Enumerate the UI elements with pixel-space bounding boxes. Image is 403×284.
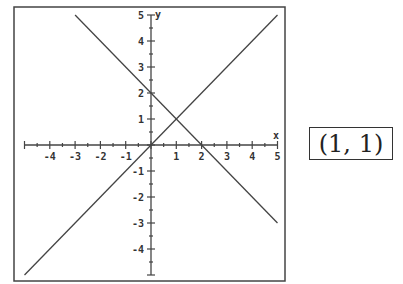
x-tick-label: 3 — [224, 151, 230, 162]
y-tick-label: 3 — [138, 62, 144, 73]
y-axis-label: y — [155, 9, 161, 20]
x-tick-label: -3 — [69, 151, 81, 162]
answer-text: (1, 1) — [319, 130, 384, 158]
plot-frame — [14, 7, 285, 281]
y-tick-label: 5 — [138, 10, 144, 21]
x-tick-label: 4 — [249, 151, 255, 162]
x-axis-label: x — [273, 130, 279, 141]
y-tick-label: -4 — [132, 244, 144, 255]
x-tick-label: -2 — [94, 151, 106, 162]
y-tick-label: -1 — [132, 166, 144, 177]
x-tick-label: 2 — [199, 151, 205, 162]
x-tick-label: -4 — [44, 151, 56, 162]
y-tick-label: 1 — [138, 114, 144, 125]
graph-plot: -4-3-2-112345-4-3-2-112345 x y — [0, 0, 290, 284]
x-tick-label: -1 — [120, 151, 132, 162]
y-tick-label: 4 — [138, 36, 144, 47]
y-tick-label: 2 — [138, 88, 144, 99]
y-tick-label: -2 — [132, 192, 144, 203]
y-tick-label: -3 — [132, 218, 144, 229]
x-tick-label: 5 — [274, 151, 280, 162]
x-tick-label: 1 — [173, 151, 179, 162]
answer-box: (1, 1) — [309, 127, 393, 160]
